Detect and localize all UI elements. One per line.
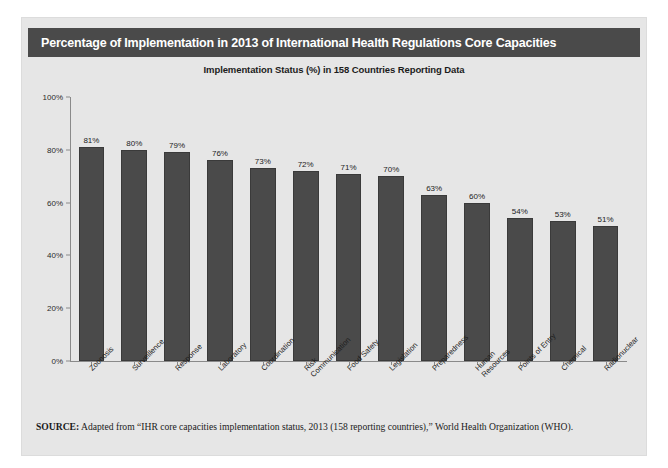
y-axis-tick-label: 80% — [47, 145, 66, 154]
bar-value-label: 73% — [255, 157, 271, 166]
bar-value-label: 53% — [555, 210, 571, 219]
y-axis-tick-label: 20% — [47, 304, 66, 313]
y-axis-tick-mark — [66, 361, 70, 362]
y-axis-tick: 100% — [43, 93, 70, 102]
bar-value-label: 54% — [512, 207, 528, 216]
y-axis-tick: 0% — [51, 357, 70, 366]
bar-value-label: 72% — [298, 160, 314, 169]
source-label: SOURCE: — [36, 421, 79, 432]
bar[interactable] — [293, 171, 319, 361]
bar-group[interactable]: 63% — [421, 97, 447, 361]
bar-group[interactable]: 54% — [507, 97, 533, 361]
bar-group[interactable]: 71% — [336, 97, 362, 361]
bar-group[interactable]: 73% — [250, 97, 276, 361]
bar[interactable] — [593, 226, 619, 361]
source-note: SOURCE: Adapted from “IHR core capacitie… — [36, 421, 636, 433]
y-axis-tick-label: 100% — [43, 93, 66, 102]
y-axis-tick-mark — [66, 255, 70, 256]
y-axis-tick-mark — [66, 202, 70, 203]
bar-value-label: 76% — [212, 149, 228, 158]
bar[interactable] — [378, 176, 404, 361]
bar-group[interactable]: 60% — [464, 97, 490, 361]
bar[interactable] — [507, 218, 533, 361]
bar-group[interactable]: 81% — [79, 97, 105, 361]
bar[interactable] — [164, 152, 190, 361]
bar-chart-plot-area: 100%80%60%40%20%0%81%80%79%76%73%72%71%7… — [70, 97, 627, 361]
bar-value-label: 79% — [169, 141, 185, 150]
bar-value-label: 81% — [83, 136, 99, 145]
bar-value-label: 71% — [340, 163, 356, 172]
y-axis-tick-mark — [66, 97, 70, 98]
y-axis-tick-mark — [66, 149, 70, 150]
bar[interactable] — [421, 195, 447, 361]
y-axis-tick: 20% — [47, 304, 70, 313]
y-axis-tick-label: 60% — [47, 198, 66, 207]
bar-group[interactable]: 80% — [121, 97, 147, 361]
y-axis-tick-mark — [66, 308, 70, 309]
y-axis-tick: 80% — [47, 145, 70, 154]
bar-value-label: 60% — [469, 192, 485, 201]
bar-group[interactable]: 72% — [293, 97, 319, 361]
source-text: Adapted from “IHR core capacities implem… — [79, 421, 573, 432]
bar-group[interactable]: 53% — [550, 97, 576, 361]
bar-group[interactable]: 51% — [593, 97, 619, 361]
y-axis-tick-label: 0% — [51, 357, 66, 366]
bar[interactable] — [79, 147, 105, 361]
bar-value-label: 80% — [126, 139, 142, 148]
bar[interactable] — [250, 168, 276, 361]
figure-card: Percentage of Implementation in 2013 of … — [22, 18, 646, 455]
bar-group[interactable]: 79% — [164, 97, 190, 361]
y-axis-tick: 40% — [47, 251, 70, 260]
bar[interactable] — [207, 160, 233, 361]
bar[interactable] — [121, 150, 147, 361]
chart-plot-wrapper: 100%80%60%40%20%0%81%80%79%76%73%72%71%7… — [22, 18, 646, 455]
bar-value-label: 63% — [426, 184, 442, 193]
bar-value-label: 51% — [598, 215, 614, 224]
y-axis-tick-label: 40% — [47, 251, 66, 260]
bar-group[interactable]: 70% — [378, 97, 404, 361]
bar-value-label: 70% — [383, 165, 399, 174]
y-axis-tick: 60% — [47, 198, 70, 207]
bar-group[interactable]: 76% — [207, 97, 233, 361]
